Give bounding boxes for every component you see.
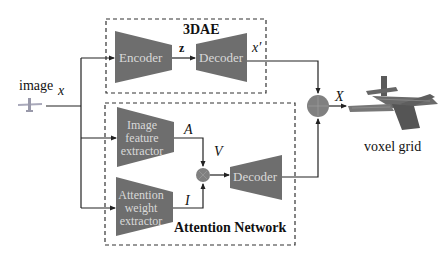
dae-encoder-block: Encoder [115,31,172,83]
svg-text:extractor: extractor [120,214,163,228]
image-feature-extractor-block: Image feature extractor [117,107,174,167]
dae-decoder-block: Decoder [196,33,247,82]
latent-variable: z [179,41,185,55]
feature-output-variable: A [183,122,193,137]
svg-text:weight: weight [125,201,158,215]
svg-text:Attention: Attention [118,188,163,202]
attention-title: Attention Network [174,220,287,235]
weight-output-variable: I [184,193,191,208]
svg-text:Encoder: Encoder [119,50,163,65]
input-airplane-icon [18,98,42,112]
input-variable: x [57,83,65,98]
dae-title: 3DAE [183,22,220,37]
svg-text:Decoder: Decoder [199,50,244,65]
voxel-airplane-icon [348,76,438,130]
svg-text:Image: Image [127,118,157,132]
svg-text:feature: feature [125,131,158,145]
architecture-diagram: 3DAE Attention Network image x Encoder z… [0,0,446,259]
svg-text:Decoder: Decoder [233,169,278,184]
attention-weight-extractor-block: Attention weight extractor [116,177,173,236]
attention-decoder-block: Decoder [230,155,282,200]
multiply-operator-icon [196,168,210,182]
svg-text:extractor: extractor [121,144,164,158]
output-variable: X [334,89,344,104]
input-label: image [19,78,53,93]
dae-output-variable: x′ [251,40,262,55]
add-operator-icon [307,95,329,117]
output-label: voxel grid [364,139,421,154]
product-variable: V [214,144,224,159]
